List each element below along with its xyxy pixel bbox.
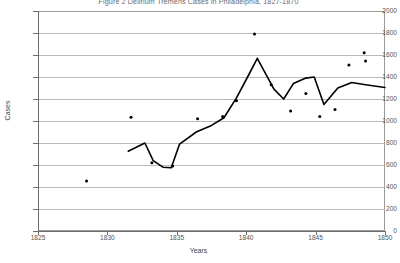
x-axis-tick-label: 1830 [92,234,122,241]
y-axis-tick-mark [33,165,38,166]
x-axis-tick-mark [316,231,317,235]
x-axis-tick-label: 1850 [370,234,400,241]
y-axis-tick-label: 800 [363,140,397,147]
y-axis-tick-label: 200 [363,206,397,213]
y-axis-tick-label: 2000 [363,8,397,15]
gridline [39,99,384,100]
chart-title: Figure 2 Delirium Tremens Cases in Phila… [0,0,397,6]
y-axis-tick-mark [33,55,38,56]
gridline [39,33,384,34]
y-axis-tick-label: 400 [363,184,397,191]
gridline [39,209,384,210]
y-axis-tick-label: 1000 [363,118,397,125]
y-axis-tick-mark [33,99,38,100]
gridline [39,55,384,56]
y-axis-tick-mark [33,187,38,188]
y-axis-tick-label: 600 [363,162,397,169]
y-axis-tick-mark [33,11,38,12]
gridline [39,143,384,144]
x-axis-tick-mark [385,231,386,235]
x-axis-title: Years [0,247,397,254]
y-axis-tick-label: 1200 [363,96,397,103]
x-axis-tick-mark [107,231,108,235]
x-axis-line [38,231,386,232]
x-axis-tick-label: 1825 [23,234,53,241]
y-axis-title: Cases [4,86,11,136]
x-axis-tick-mark [246,231,247,235]
plot-area [38,11,385,231]
gridline [39,121,384,122]
y-axis-tick-mark [33,77,38,78]
y-axis-tick-mark [33,143,38,144]
gridline [39,187,384,188]
y-axis-tick-mark [33,121,38,122]
y-axis-tick-mark [33,209,38,210]
x-axis-tick-mark [177,231,178,235]
x-axis-tick-label: 1840 [231,234,261,241]
y-axis-tick-label: 1600 [363,52,397,59]
y-axis-tick-label: 1400 [363,74,397,81]
y-axis-tick-mark [33,33,38,34]
y-axis-line [38,11,39,232]
y-axis-tick-label: 1800 [363,30,397,37]
x-axis-tick-label: 1845 [301,234,331,241]
gridline [39,165,384,166]
x-axis-tick-mark [38,231,39,235]
gridline [39,77,384,78]
x-axis-tick-label: 1835 [162,234,192,241]
